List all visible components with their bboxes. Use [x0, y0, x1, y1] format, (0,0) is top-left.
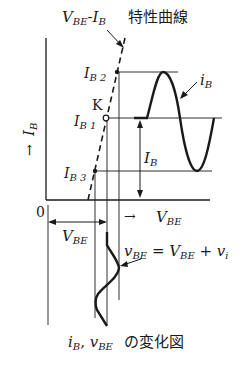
caption-math: iB, vBE: [68, 333, 114, 352]
ib-dc-label: IB: [143, 149, 157, 168]
ib3-point: [93, 169, 97, 173]
ib2-label: IB 2: [83, 65, 106, 83]
x-axis-arrow: →: [124, 208, 136, 224]
origin-label: 0: [36, 204, 45, 220]
ib3-label: IB 3: [63, 165, 86, 183]
svg-text:→: →: [21, 144, 37, 156]
vbe-equation: vBE = VBE + vi: [124, 242, 229, 261]
ib-wave-label: iB: [200, 71, 212, 90]
vbe-dim-arrow-right: [99, 219, 107, 225]
ib2-point: [115, 70, 119, 74]
k-label: K: [92, 97, 103, 113]
ib1-label: IB 1: [73, 113, 96, 131]
ib-dim-arrow-down: [137, 190, 143, 198]
y-axis-label: → IB: [20, 123, 39, 156]
vbe-dc-label: VBE: [62, 227, 88, 246]
ib-dim-arrow-up: [137, 120, 143, 128]
caption-jp: の変化図: [124, 333, 184, 351]
k-operating-point: [103, 115, 109, 121]
curve-title-v: VBE-IB: [62, 8, 106, 27]
curve-title-jp: 特性曲線: [128, 8, 188, 26]
svg-text:IB: IB: [20, 123, 39, 137]
vbe-dim-arrow-left: [48, 219, 56, 225]
diagram-canvas: VBE-IB 特性曲線 → IB 0 → VBE IB 2 K IB 1 IB …: [0, 0, 248, 373]
x-axis-label: VBE: [156, 208, 182, 227]
vbe-equation-pointer-head: [120, 261, 128, 267]
